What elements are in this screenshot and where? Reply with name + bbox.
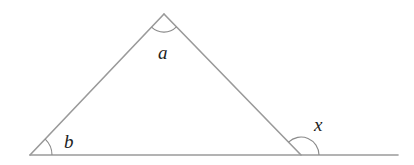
label-a: a bbox=[158, 42, 168, 63]
apex-angle-arc bbox=[152, 27, 177, 32]
left-side bbox=[30, 14, 164, 155]
diagram-svg: a b x bbox=[0, 0, 414, 165]
label-x: x bbox=[313, 114, 323, 135]
triangle-diagram: a b x bbox=[0, 0, 414, 165]
left-angle-arc bbox=[45, 139, 52, 155]
right-side bbox=[164, 14, 301, 155]
label-b: b bbox=[64, 131, 74, 152]
